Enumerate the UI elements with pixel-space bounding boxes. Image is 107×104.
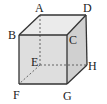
label-E: E	[31, 55, 38, 69]
label-D: D	[83, 1, 92, 15]
label-F: F	[13, 88, 20, 102]
label-C: C	[69, 33, 77, 47]
front-face	[19, 35, 67, 84]
label-B: B	[8, 28, 16, 42]
label-H: H	[88, 59, 97, 73]
label-G: G	[63, 89, 72, 103]
cube-diagram: A D B C E H F G	[0, 0, 107, 104]
label-A: A	[35, 1, 44, 15]
